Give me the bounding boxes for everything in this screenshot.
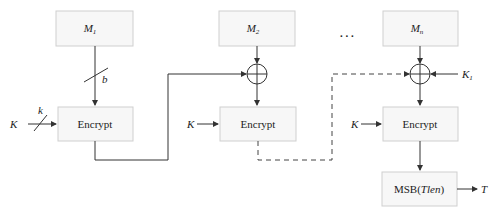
ellipsis: . . . <box>340 27 354 39</box>
label-b: b <box>102 73 108 85</box>
block-msb: MSB(Tlen) <box>382 172 457 206</box>
output-label: T <box>481 183 488 195</box>
key-label-1: K <box>9 118 18 130</box>
block-encrypt-3: Encrypt <box>383 107 458 141</box>
key-label-2: K <box>186 118 195 130</box>
key-width-slash <box>34 115 47 131</box>
svg-text:Encrypt: Encrypt <box>78 118 113 130</box>
svg-text:MSB(Tlen): MSB(Tlen) <box>394 183 444 196</box>
svg-text:Encrypt: Encrypt <box>403 118 438 130</box>
label-k: k <box>38 104 44 116</box>
xor-icon-2 <box>247 64 267 84</box>
block-m2: M2 <box>219 11 295 46</box>
xor-icon-3 <box>410 64 430 84</box>
svg-text:Encrypt: Encrypt <box>241 118 276 130</box>
key-label-3: K <box>350 118 359 130</box>
block-m1: M1 <box>56 11 133 46</box>
block-mn: Mn <box>383 11 458 46</box>
block-encrypt-2: Encrypt <box>220 107 296 141</box>
block-encrypt-1: Encrypt <box>58 107 133 141</box>
k1-label: K1 <box>461 68 473 82</box>
cmac-diagram: M1 b Encrypt K k M2 Encrypt K . . . Mn <box>0 0 494 213</box>
